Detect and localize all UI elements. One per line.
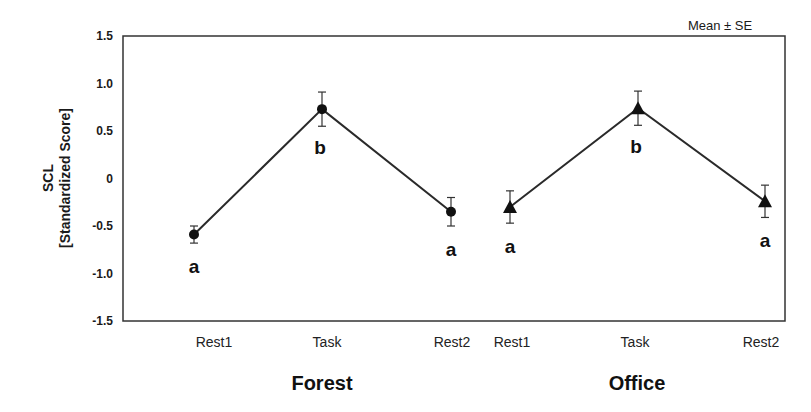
- group-labels: ForestOffice: [291, 372, 665, 394]
- series-line: [194, 109, 451, 234]
- circle-marker: [317, 104, 327, 114]
- significance-letter: a: [505, 236, 516, 257]
- plot-frame: [123, 36, 785, 321]
- circle-marker: [189, 230, 199, 240]
- x-category-label: Rest1: [494, 334, 531, 350]
- y-axis-ticks: 1.51.00.50-0.5-1.0-1.5: [92, 29, 113, 328]
- y-axis-title-line2: [Standardized Score]: [57, 108, 73, 248]
- y-tick-label: 1.5: [96, 29, 113, 43]
- group-label-office: Office: [609, 372, 666, 394]
- circle-marker: [446, 207, 456, 217]
- x-category-label: Rest2: [434, 334, 471, 350]
- series-layer: abaaba: [189, 91, 772, 277]
- significance-letter: a: [189, 256, 200, 277]
- y-tick-label: -1.0: [92, 267, 113, 281]
- mean-se-note: Mean ± SE: [688, 18, 753, 33]
- y-axis-title: SCL [Standardized Score]: [40, 108, 73, 248]
- triangle-marker: [631, 101, 645, 114]
- x-category-label: Rest2: [743, 334, 780, 350]
- x-category-labels: Rest1TaskRest2Rest1TaskRest2: [196, 334, 780, 350]
- significance-letter: b: [314, 137, 326, 158]
- x-category-label: Task: [313, 334, 343, 350]
- significance-letter: a: [446, 239, 457, 260]
- series-forest: aba: [189, 92, 457, 277]
- y-tick-label: 0.5: [96, 124, 113, 138]
- y-tick-label: 1.0: [96, 77, 113, 91]
- y-tick-label: -0.5: [92, 219, 113, 233]
- y-tick-label: -1.5: [92, 314, 113, 328]
- x-category-label: Task: [621, 334, 651, 350]
- y-axis-title-line1: SCL: [40, 164, 56, 192]
- scl-chart: Mean ± SE SCL [Standardized Score] 1.51.…: [0, 0, 811, 412]
- triangle-marker: [758, 194, 772, 207]
- x-category-label: Rest1: [196, 334, 233, 350]
- triangle-marker: [503, 200, 517, 213]
- y-tick-label: 0: [106, 172, 113, 186]
- significance-letter: a: [760, 230, 771, 251]
- series-office: aba: [503, 91, 772, 257]
- group-label-forest: Forest: [291, 372, 352, 394]
- significance-letter: b: [630, 136, 642, 157]
